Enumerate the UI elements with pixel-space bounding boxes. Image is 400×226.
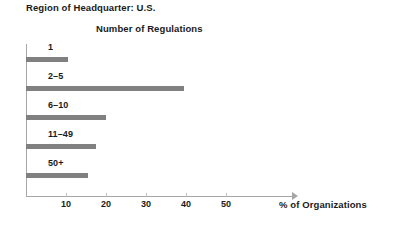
x-tick-mark [106,193,107,197]
bar [26,57,68,62]
x-tick-label: 30 [141,199,151,209]
bar [26,86,184,91]
x-tick-label: 40 [181,199,191,209]
x-tick-label: 10 [61,199,71,209]
x-tick-mark [226,193,227,197]
x-tick-mark [66,193,67,197]
category-label: 2–5 [48,71,63,81]
x-tick-label: 50 [221,199,231,209]
bar [26,144,96,149]
bar [26,173,88,178]
plot-area: 12–56–1011–4950+ 1020304050 [0,0,400,226]
x-tick-label: 20 [101,199,111,209]
chart-screenshot: Region of Headquarter: U.S. Number of Re… [0,0,400,226]
category-label: 6–10 [48,100,68,110]
category-label: 1 [48,42,53,52]
category-label: 50+ [48,158,64,168]
category-label: 11–49 [48,129,73,139]
x-axis-title: % of Organizations [279,199,367,210]
x-tick-mark [146,193,147,197]
bar [26,115,106,120]
x-tick-mark [186,193,187,197]
